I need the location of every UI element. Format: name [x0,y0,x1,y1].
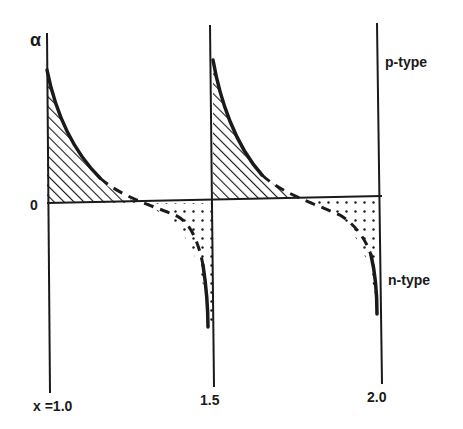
p-type-label: p-type [385,54,427,70]
y-axis-label: α [30,30,41,50]
p-type-region-1 [47,70,140,203]
n-type-label: n-type [388,272,430,288]
x-tick-1-5: 1.5 [200,392,220,408]
x-tick-2-0: 2.0 [367,389,387,405]
p-type-region-2 [213,60,300,200]
zero-label: 0 [30,197,38,213]
x-tick-1-0: x =1.0 [33,398,73,414]
seebeck-coefficient-diagram: α 0 p-type n-type x =1.0 1.5 2.0 [0,0,463,429]
